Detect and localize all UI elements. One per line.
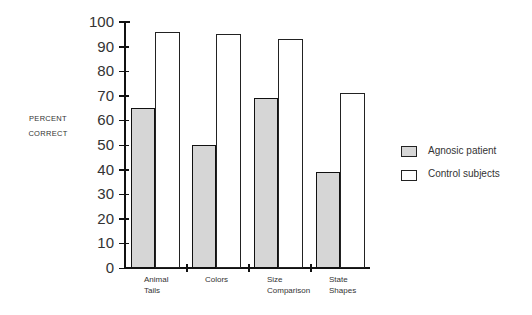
y-axis-line <box>124 21 126 269</box>
y-tick-label: 40 <box>74 162 114 177</box>
x-category-separator <box>186 264 188 272</box>
x-category-separator <box>248 264 250 272</box>
x-category-label-line: Animal <box>144 274 168 285</box>
y-tick-label: 90 <box>74 39 114 54</box>
x-category-label-line: Colors <box>205 274 228 285</box>
bar-control-3 <box>340 93 365 268</box>
y-tick-label: 100 <box>74 14 114 29</box>
x-category-label: AnimalTails <box>144 274 168 296</box>
y-axis-label-line1: PERCENT <box>22 114 74 123</box>
x-category-label: SizeComparison <box>267 274 310 296</box>
x-category-label: Colors <box>205 274 228 285</box>
legend-swatch-control <box>401 170 417 181</box>
y-tick-label: 0 <box>74 260 114 275</box>
bar-control-2 <box>278 39 303 268</box>
y-tick-label: 20 <box>74 211 114 226</box>
y-axis-cap <box>119 21 130 23</box>
y-tick-label: 80 <box>74 63 114 78</box>
x-category-label: StateShapes <box>329 274 356 296</box>
x-category-label-line: Size <box>267 274 310 285</box>
y-tick-label: 30 <box>74 186 114 201</box>
y-axis-label-line2: CORRECT <box>22 129 74 138</box>
bar-agnosic-3 <box>316 172 341 268</box>
y-tick-label: 10 <box>74 235 114 250</box>
x-category-label-line: Comparison <box>267 285 310 296</box>
legend-label-agnosic: Agnosic patient <box>428 145 496 156</box>
legend-swatch-agnosic <box>401 146 417 157</box>
bar-agnosic-1 <box>192 145 217 268</box>
bar-control-1 <box>216 34 241 268</box>
legend-label-control: Control subjects <box>428 168 500 179</box>
y-tick-label: 50 <box>74 137 114 152</box>
bar-control-0 <box>155 32 180 268</box>
x-category-label-line: State <box>329 274 356 285</box>
y-tick-label: 60 <box>74 112 114 127</box>
x-category-label-line: Shapes <box>329 285 356 296</box>
y-tick-label: 70 <box>74 88 114 103</box>
x-category-separator <box>310 264 312 272</box>
x-category-label-line: Tails <box>144 285 168 296</box>
bar-agnosic-2 <box>254 98 279 268</box>
bar-agnosic-0 <box>131 108 156 268</box>
